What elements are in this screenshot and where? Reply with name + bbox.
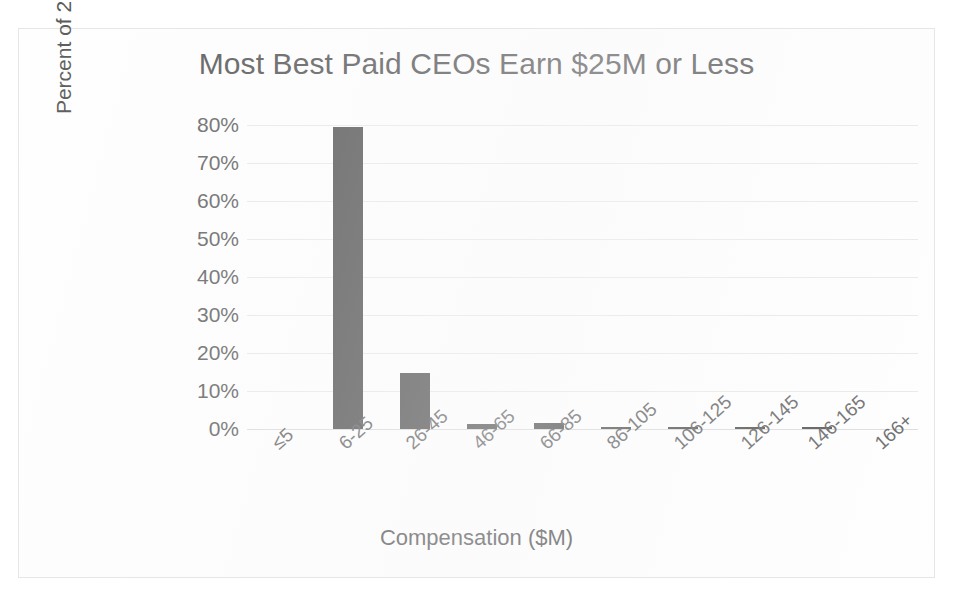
plot-area	[247, 125, 918, 429]
chart-container: Most Best Paid CEOs Earn $25M or Less Pe…	[18, 28, 935, 578]
bar-slot[interactable]	[650, 125, 717, 429]
y-axis-tick-label: 40%	[139, 265, 239, 289]
y-axis-tick-labels: 0%10%20%30%40%50%60%70%80%	[139, 125, 239, 429]
bar-slot[interactable]	[448, 125, 515, 429]
bar-slot[interactable]	[515, 125, 582, 429]
y-axis-tick-label: 20%	[139, 341, 239, 365]
y-axis-tick-label: 80%	[139, 113, 239, 137]
y-axis-tick-label: 60%	[139, 189, 239, 213]
y-axis-tick-label: 0%	[139, 417, 239, 441]
bar-slot[interactable]	[851, 125, 918, 429]
x-axis-tick-label: ≤5	[267, 424, 297, 454]
y-axis-tick-label: 70%	[139, 151, 239, 175]
bar-slot[interactable]	[583, 125, 650, 429]
bar-slot[interactable]	[717, 125, 784, 429]
bar-slot[interactable]	[247, 125, 314, 429]
chart-title: Most Best Paid CEOs Earn $25M or Less	[19, 47, 934, 81]
bar-slot[interactable]	[314, 125, 381, 429]
bar-series	[247, 125, 918, 429]
y-axis-title: Percent of 200 Best Paid CEOs	[51, 0, 77, 127]
y-axis-tick-label: 50%	[139, 227, 239, 251]
x-axis-tick-labels: ≤56-2526-4546-6566-8586-105106-125126-14…	[247, 429, 918, 539]
y-axis-tick-label: 10%	[139, 379, 239, 403]
bar[interactable]	[333, 127, 363, 429]
bar-slot[interactable]	[381, 125, 448, 429]
bar-slot[interactable]	[784, 125, 851, 429]
y-axis-tick-label: 30%	[139, 303, 239, 327]
x-axis-title: Compensation ($M)	[19, 525, 934, 551]
